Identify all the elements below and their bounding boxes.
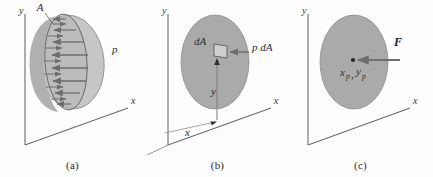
center-of-pressure-y-label: y	[355, 65, 361, 77]
center-of-pressure-x-label: x	[339, 66, 345, 78]
panel-c-caption: (c)	[288, 159, 433, 171]
panel-c-x-axis-label: x	[412, 95, 418, 106]
panel-b: dA p dA y x y x (b)	[145, 0, 290, 177]
panel-a-diagram: A p y x	[0, 0, 145, 160]
panel-a: A p y x (a)	[0, 0, 145, 177]
figure-container: A p y x (a)	[0, 0, 433, 177]
panel-c-x-axis	[308, 108, 410, 145]
panel-c: F x p , y p y x (c)	[288, 0, 433, 177]
panel-a-x-axis	[25, 108, 128, 145]
panel-b-x-axis	[168, 108, 271, 145]
center-of-pressure-point	[351, 58, 355, 62]
panel-b-x-axis-label: x	[273, 95, 279, 106]
panel-b-area-element	[214, 44, 227, 58]
panel-a-y-axis-label: y	[18, 5, 24, 16]
panel-a-x-axis-label: x	[130, 95, 136, 106]
panel-b-x-distance-arrowhead	[211, 122, 218, 126]
panel-b-y-axis-label: y	[161, 5, 167, 16]
element-area-label: dA	[194, 35, 207, 47]
resultant-force-label: F	[393, 35, 402, 49]
center-of-pressure-comma: ,	[351, 68, 354, 80]
panel-b-dA-rect	[214, 44, 227, 58]
x-distance-label: x	[184, 126, 190, 138]
y-distance-label: y	[210, 85, 216, 97]
center-of-pressure-y-sub: p	[361, 72, 366, 81]
panel-c-y-axis-label: y	[301, 5, 307, 16]
area-label: A	[36, 1, 44, 13]
panel-b-depth-axis	[147, 145, 168, 155]
panel-a-plane-area	[30, 12, 109, 112]
pressure-label: p	[111, 43, 118, 55]
element-force-label: p dA	[251, 41, 273, 53]
panel-c-diagram: F x p , y p y x	[288, 0, 433, 160]
center-of-pressure-x-sub: p	[345, 72, 350, 81]
panel-c-plane-area	[320, 15, 388, 109]
panel-b-diagram: dA p dA y x y x	[145, 0, 290, 160]
panel-a-caption: (a)	[0, 159, 145, 171]
panel-b-caption: (b)	[145, 159, 290, 171]
